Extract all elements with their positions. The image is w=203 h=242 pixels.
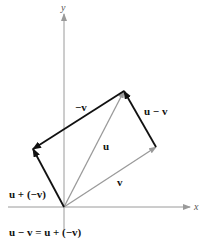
vector-u-minus-v	[124, 91, 156, 147]
vector-diagram: x y −v u − v u v u + (−v) u − v = u + (−…	[0, 0, 203, 242]
vector-v	[64, 147, 156, 207]
label-neg-v: −v	[75, 101, 87, 113]
y-axis-label: y	[60, 2, 66, 13]
equation: u − v = u + (−v)	[9, 226, 81, 239]
x-axis-label: x	[193, 201, 199, 212]
label-v: v	[117, 176, 123, 188]
vector-u	[64, 91, 124, 207]
vector-neg-v	[33, 91, 124, 149]
label-u-plus-neg-v: u + (−v)	[9, 188, 46, 201]
label-u: u	[103, 140, 109, 152]
label-u-minus-v: u − v	[144, 105, 168, 117]
